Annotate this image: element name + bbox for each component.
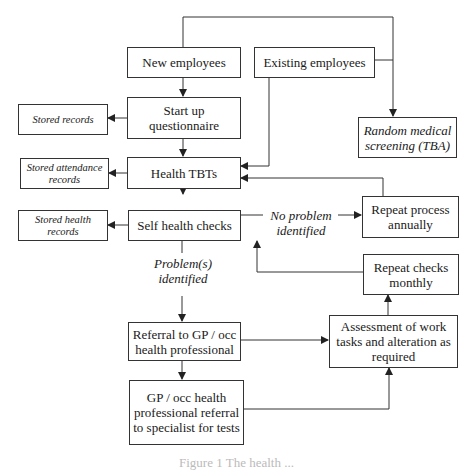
node-self-health-checks: Self health checks xyxy=(128,210,241,241)
node-stored-health-records: Stored health records xyxy=(18,210,108,241)
node-startup-questionnaire: Start up questionnaire xyxy=(127,97,241,139)
node-stored-records: Stored records xyxy=(18,104,108,135)
node-specialist-referral: GP / occ health professional referral to… xyxy=(129,380,244,445)
edge-label-no-problem: No problem identified xyxy=(266,208,336,238)
edge-label-problems-identified: Problem(s) identified xyxy=(146,256,220,286)
node-referral-to-gp: Referral to GP / occ health professional xyxy=(128,322,241,361)
node-repeat-checks-monthly: Repeat checks monthly xyxy=(363,254,459,295)
node-repeat-process-annually: Repeat process annually xyxy=(362,196,459,238)
node-stored-attendance-records: Stored attendance records xyxy=(20,158,109,189)
node-random-medical-screening: Random medical screening (TBA) xyxy=(358,117,457,158)
node-new-employees: New employees xyxy=(127,47,241,78)
node-existing-employees: Existing employees xyxy=(254,47,375,78)
figure-caption: Figure 1 The health ... xyxy=(0,455,473,471)
node-health-tbts: Health TBTs xyxy=(127,157,241,189)
node-assessment-of-work-tasks: Assessment of work tasks and alteration … xyxy=(329,315,458,368)
